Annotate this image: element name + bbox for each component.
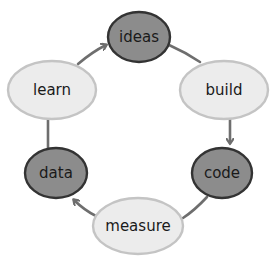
node-learn: learn bbox=[8, 61, 96, 119]
node-label: build bbox=[206, 81, 243, 99]
node-label: ideas bbox=[119, 28, 159, 46]
node-label: measure bbox=[105, 217, 170, 235]
node-ideas: ideas bbox=[108, 12, 170, 62]
node-data: data bbox=[25, 148, 87, 198]
node-build: build bbox=[180, 61, 268, 119]
node-label: code bbox=[204, 164, 240, 182]
edge-ideas-to-build bbox=[169, 45, 200, 62]
cycle-diagram: ideas build code measure data learn bbox=[0, 0, 277, 265]
node-label: learn bbox=[33, 81, 71, 99]
edge-code-to-measure bbox=[183, 197, 207, 218]
node-label: data bbox=[39, 164, 73, 182]
edge-learn-to-ideas bbox=[78, 45, 106, 64]
node-code: code bbox=[192, 148, 252, 198]
edge-measure-to-data bbox=[74, 200, 96, 216]
node-measure: measure bbox=[93, 198, 183, 254]
